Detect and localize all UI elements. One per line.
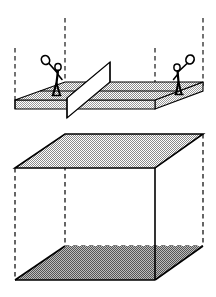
player-left-head: [55, 64, 61, 71]
figure-root: [0, 0, 216, 297]
tennis-court-bounding-box-diagram: [0, 0, 216, 297]
